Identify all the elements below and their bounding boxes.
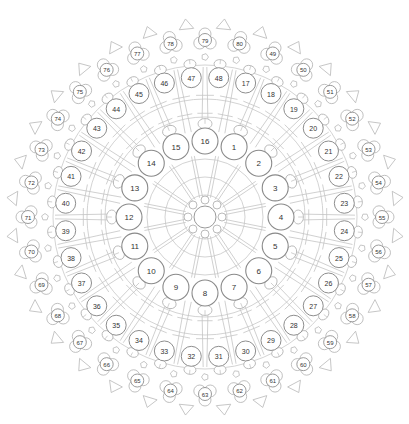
hub-small-circle [184,213,192,221]
panel-number: 23 [340,200,348,207]
panel-25: 25 [329,248,358,269]
hub-small-circle [189,225,197,233]
panel-61: 61 [261,370,283,392]
panel-number: 80 [236,41,243,47]
panel-12: 12 [106,204,142,230]
panel-44: 44 [100,91,126,119]
panel-number: 67 [76,340,83,346]
rim-triangle [79,63,91,75]
panel-number: 46 [160,80,168,87]
panel-55: 55 [373,206,394,228]
tracery-blob [358,245,365,252]
panel-64: 64 [160,381,182,403]
panel-number: 30 [242,348,250,355]
lancet-bar [177,317,192,320]
tracery-blob [263,66,270,72]
panel-6: 6 [246,258,280,292]
panel-75: 75 [70,82,92,104]
tracery-blob [45,182,52,189]
panel-number: 40 [62,200,70,207]
tracery-blob [359,183,366,190]
panel-number: 44 [112,106,120,113]
lancet-bar [84,232,87,250]
panel-number: 74 [54,116,61,122]
panel-8: 8 [192,280,218,316]
panel-number: 16 [201,137,210,146]
rim-triangle [253,396,267,408]
panel-number: 68 [54,313,61,319]
panel-10: 10 [130,258,164,292]
rim-triangle [384,155,396,169]
panel-number: 31 [215,353,223,360]
panel-77: 77 [128,42,150,64]
spoke-line [222,184,257,207]
lancet-bar [323,184,326,202]
rim-triangle [368,122,380,135]
panel-number: 33 [160,348,168,355]
rim-triangle [288,380,301,392]
panel-number: 24 [340,228,348,235]
panel-number: 25 [335,255,343,262]
rim-triangle [216,19,230,30]
panel-73: 73 [30,140,52,162]
spoke-line [153,184,188,207]
panel-51: 51 [318,82,340,104]
panel-number: 41 [67,173,75,180]
rim-triangle [110,380,123,392]
spoke-line [169,166,192,201]
rim-triangle [79,358,91,370]
rim-triangle [368,300,380,313]
panel-20: 20 [303,112,331,138]
panel-number: 48 [215,75,223,82]
rim-triangle [179,19,193,30]
panel-number: 51 [327,89,334,95]
lancet-bar [220,335,238,338]
hub-small-circle [218,213,226,221]
lancet-bar [218,317,233,320]
tracery-blob [69,303,76,309]
panel-76: 76 [97,59,118,81]
tracery-blob [233,57,240,64]
tracery-blob [315,100,322,107]
rim-triangle [288,41,301,53]
rim-triangle [29,300,41,313]
panel-number: 29 [267,337,275,344]
panel-number: 55 [379,215,386,221]
lancet-bar [89,255,96,272]
hub-center-circle [194,206,216,228]
lancet-bar [150,326,167,333]
tracery-blob [54,275,60,282]
lancet-bar [220,96,238,99]
tracery-blob [45,245,52,252]
panel-39: 39 [47,221,76,241]
panel-72: 72 [20,172,42,194]
panel-number: 18 [267,91,275,98]
panel-number: 7 [232,283,237,292]
panel-number: 52 [349,116,356,122]
panel-number: 27 [309,303,317,310]
lancet-bar [89,162,96,179]
lancet-bar [287,153,295,166]
tracery-blob [233,371,240,378]
panel-66: 66 [97,353,118,375]
tracery-blob [315,327,322,334]
tracery-blob [335,125,342,131]
panel-43: 43 [79,112,107,138]
hub-small-circle [201,230,209,238]
panel-80: 80 [228,32,250,54]
panel-number: 3 [273,184,278,193]
panel-number: 75 [76,89,83,95]
panel-number: 12 [125,213,134,222]
panel-23: 23 [334,193,363,213]
panel-number: 58 [349,313,356,319]
spoke-line [154,181,189,204]
spoke-line [221,181,256,204]
lancet-bar [305,189,308,204]
panel-number: 76 [103,67,110,73]
tracery-blob [362,214,369,220]
panel-69: 69 [30,273,52,295]
tracery-blob [291,347,297,354]
panel-number: 1 [232,143,237,152]
panel-number: 56 [375,249,382,255]
lancet-bar [172,96,190,99]
